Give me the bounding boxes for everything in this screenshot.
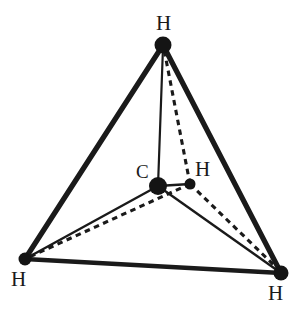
atom-label-h-top: H [156, 13, 171, 34]
atom-node-h-bottom-left [19, 253, 32, 266]
atom-label-h-rear: H [195, 159, 210, 180]
bond-carbon-to-top-h [158, 47, 163, 186]
atom-node-h-top [155, 37, 172, 54]
atom-node-h-bottom-right [274, 266, 289, 281]
atom-node-h-rear [185, 179, 196, 190]
carbon-bonds [25, 47, 281, 273]
atom-label-carbon: C [136, 162, 149, 181]
edge-bottom-left-to-bottom-right [25, 259, 281, 273]
methane-tetrahedron-diagram: H C H H H [0, 0, 305, 319]
dashed-bond-rear-h-to-bottom-right-h [190, 184, 280, 271]
atom-label-h-bottom-left: H [11, 269, 26, 290]
atom-node-carbon [149, 177, 167, 195]
bond-carbon-to-bottom-left-h [25, 186, 158, 259]
atom-label-h-bottom-right: H [268, 283, 283, 304]
molecule-svg [0, 0, 305, 319]
bond-carbon-to-bottom-right-h [158, 186, 281, 273]
edge-top-to-bottom-right [163, 45, 281, 273]
